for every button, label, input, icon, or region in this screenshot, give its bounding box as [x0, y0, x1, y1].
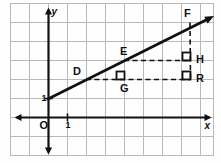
coordinate-plane-svg	[0, 0, 221, 163]
x-axis-label: x	[205, 121, 211, 131]
x-axis-tick-label: 1	[66, 121, 71, 130]
point-label-G: G	[120, 83, 129, 94]
point-label-E: E	[120, 46, 127, 57]
point-label-F: F	[184, 8, 191, 19]
geometry-figure: DEFGHR x y O 1 1	[0, 0, 221, 163]
y-axis-tick-label: 1	[42, 94, 47, 103]
point-label-H: H	[196, 54, 204, 65]
y-axis-label: y	[52, 7, 58, 17]
point-label-D: D	[73, 66, 81, 77]
origin-label: O	[40, 120, 49, 131]
point-label-R: R	[196, 73, 204, 84]
